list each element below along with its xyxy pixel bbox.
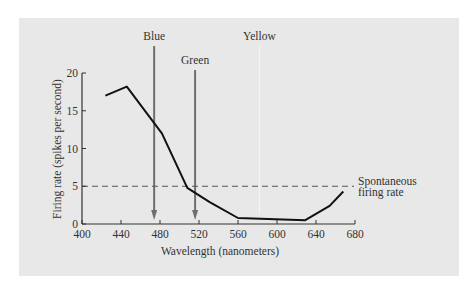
x-tick-label: 640 xyxy=(307,228,325,240)
arrow-head-icon xyxy=(192,210,198,220)
spontaneous-rate-line: Spontaneousfiring rate xyxy=(82,175,417,199)
x-tick-label: 520 xyxy=(190,228,208,240)
line-chart: BlueGreenYellow Spontaneousfiring rate 4… xyxy=(0,0,476,295)
wavelength-annotations: BlueGreenYellow xyxy=(143,30,276,220)
blue-label: Blue xyxy=(143,30,165,42)
x-tick-label: 440 xyxy=(112,228,130,240)
x-tick-label: 560 xyxy=(229,228,247,240)
y-tick-label: 10 xyxy=(67,143,79,155)
y-tick-label: 0 xyxy=(72,218,78,230)
y-tick-label: 15 xyxy=(67,105,79,117)
data-line xyxy=(105,87,343,221)
x-tick-label: 480 xyxy=(151,228,169,240)
y-tick-label: 20 xyxy=(67,67,79,79)
arrow-head-icon xyxy=(151,210,157,220)
green-label: Green xyxy=(181,54,209,66)
x-tick-label: 600 xyxy=(268,228,286,240)
x-axis-title: Wavelength (nanometers) xyxy=(161,245,279,258)
reference-line-label: firing rate xyxy=(358,186,404,199)
y-axis-title: Firing rate (spikes per second) xyxy=(51,79,64,219)
yellow-label: Yellow xyxy=(243,30,276,42)
firing-rate-curve xyxy=(105,87,343,221)
y-tick-label: 5 xyxy=(72,180,78,192)
x-tick-label: 680 xyxy=(346,228,364,240)
